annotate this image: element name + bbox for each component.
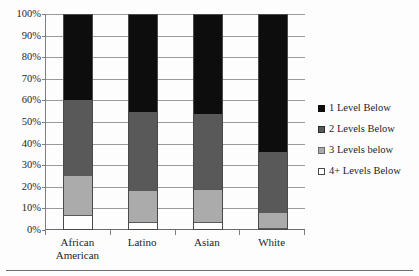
bar-segment	[128, 112, 158, 191]
legend-item-3[interactable]: 3 Levels below	[318, 140, 418, 161]
x-tick-mark	[45, 230, 46, 235]
bar-segment	[63, 176, 93, 215]
x-axis-category-label: Latino	[128, 236, 157, 249]
bar-segment	[63, 215, 93, 230]
plot-area: 0%10%20%30%40%50%60%70%80%90%100%	[45, 14, 305, 230]
y-axis-tick-label: 0%	[27, 225, 41, 236]
y-tick-mark	[42, 36, 46, 37]
bar-segment	[258, 14, 288, 152]
y-tick-mark	[42, 165, 46, 166]
bar-segment	[128, 222, 158, 230]
y-axis-tick-label: 60%	[22, 95, 41, 106]
category-label-line: Latino	[128, 236, 157, 249]
y-axis-tick-label: 80%	[22, 52, 41, 63]
plot-inner: 0%10%20%30%40%50%60%70%80%90%100%	[46, 14, 305, 230]
category-label-line: American	[56, 249, 99, 262]
bar-segment	[63, 100, 93, 176]
x-tick-mark	[239, 230, 240, 235]
y-axis-tick-label: 10%	[22, 203, 41, 214]
document-page: 0%10%20%30%40%50%60%70%80%90%100% Africa…	[0, 0, 419, 276]
y-tick-mark	[42, 14, 46, 15]
bar-segment	[63, 14, 93, 100]
legend-item-1[interactable]: 1 Level Below	[318, 98, 418, 119]
bar-segment	[193, 14, 223, 114]
y-tick-mark	[42, 100, 46, 101]
bar-segment	[128, 14, 158, 112]
y-axis-tick-label: 100%	[17, 9, 42, 20]
legend-label: 4+ Levels Below	[329, 166, 401, 177]
legend-swatch-icon	[318, 105, 325, 112]
x-axis-category-label: Asian	[194, 236, 220, 249]
y-tick-mark	[42, 208, 46, 209]
bar-african-american[interactable]	[63, 14, 93, 230]
chart-legend: 1 Level Below2 Levels Below3 Levels belo…	[318, 98, 418, 182]
x-tick-mark	[175, 230, 176, 235]
y-axis-tick-label: 70%	[22, 74, 41, 85]
y-axis-tick-label: 90%	[22, 30, 41, 41]
legend-swatch-icon	[318, 126, 325, 133]
y-axis-tick-label: 20%	[22, 182, 41, 193]
legend-swatch-icon	[318, 168, 325, 175]
legend-label: 3 Levels below	[329, 145, 393, 156]
y-axis-tick-label: 30%	[22, 160, 41, 171]
bar-white[interactable]	[258, 14, 288, 230]
stacked-bar-chart: 0%10%20%30%40%50%60%70%80%90%100% Africa…	[0, 6, 419, 256]
x-tick-mark	[304, 230, 305, 235]
bar-segment	[258, 152, 288, 212]
legend-swatch-icon	[318, 147, 325, 154]
y-tick-mark	[42, 79, 46, 80]
legend-label: 2 Levels Below	[329, 124, 395, 135]
y-tick-mark	[42, 57, 46, 58]
legend-item-2[interactable]: 2 Levels Below	[318, 119, 418, 140]
y-axis-tick-label: 50%	[22, 117, 41, 128]
x-axis-category-label: White	[258, 236, 285, 249]
bar-segment	[128, 191, 158, 222]
bar-latino[interactable]	[128, 14, 158, 230]
bar-segment	[193, 222, 223, 230]
bar-segment	[193, 190, 223, 222]
category-label-line: African	[56, 236, 99, 249]
category-label-line: White	[258, 236, 285, 249]
bar-segment	[258, 213, 288, 228]
page-header-cutoff-text	[235, 0, 415, 5]
category-label-line: Asian	[194, 236, 220, 249]
x-tick-mark	[110, 230, 111, 235]
y-tick-mark	[42, 144, 46, 145]
legend-label: 1 Level Below	[329, 103, 391, 114]
page-footer-rule	[6, 270, 413, 271]
y-axis-tick-label: 40%	[22, 138, 41, 149]
x-axis: AfricanAmericanLatinoAsianWhite	[45, 230, 305, 256]
x-axis-category-label: AfricanAmerican	[56, 236, 99, 261]
bar-asian[interactable]	[193, 14, 223, 230]
legend-item-4[interactable]: 4+ Levels Below	[318, 161, 418, 182]
y-tick-mark	[42, 122, 46, 123]
y-tick-mark	[42, 187, 46, 188]
bar-segment	[193, 114, 223, 190]
